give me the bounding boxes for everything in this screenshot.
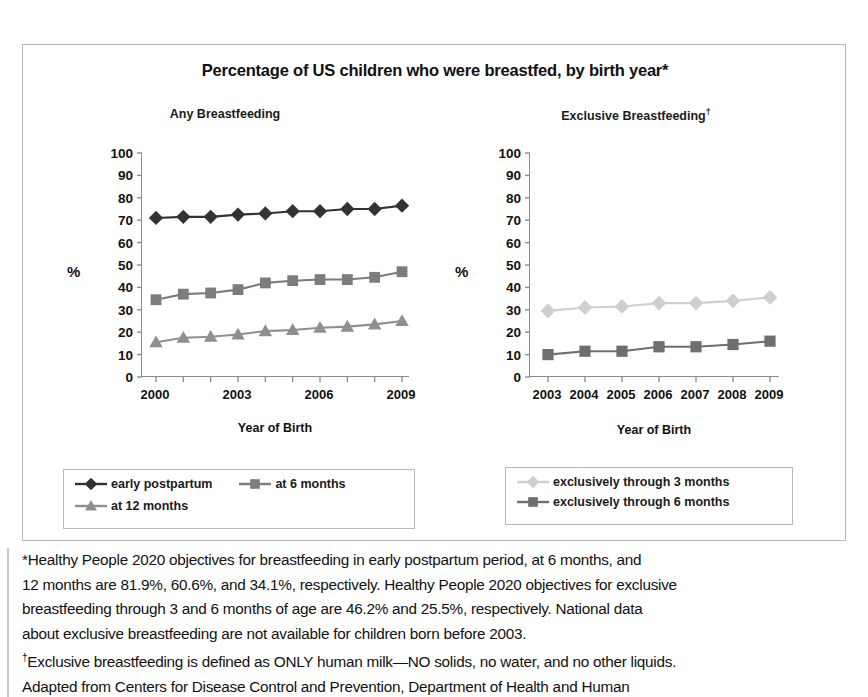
data-point-marker [690,341,701,352]
series-line-at-12-months [156,321,402,342]
left-panel-title: Any Breastfeeding [65,107,385,121]
right-panel-title-text: Exclusive Breastfeeding [561,109,706,123]
y-tick-label: 40 [453,280,521,295]
legend-item-at-12-months[interactable]: at 12 months [74,499,188,513]
data-point-marker [342,274,353,285]
data-point-marker [763,290,778,305]
legend-item-label: at 6 months [275,477,345,491]
data-point-marker [578,300,593,315]
y-tick-label: 20 [453,325,521,340]
legend-row: early postpartumat 6 months [74,477,404,491]
y-tick-label: 0 [453,370,521,385]
chart-any-breastfeeding: % 1009080706050403020100 200020032006200… [65,141,425,441]
data-point-marker [541,304,556,319]
y-tick-label: 30 [453,302,521,317]
y-tick-label: 80 [65,190,133,205]
chart-exclusive-breastfeeding: % 1009080706050403020100 200320042005200… [453,141,823,441]
footnote-line-1: *Healthy People 2020 objectives for brea… [22,548,846,573]
y-tick-label: 100 [65,146,133,161]
y-tick-label: 10 [65,347,133,362]
x-tick-label: 2006 [305,387,334,402]
x-tick-label: 2009 [387,387,416,402]
data-point-marker [205,288,216,299]
left-plot-area [141,153,409,377]
x-tick-label: 2004 [570,387,599,402]
legend-item-exclusively-through-6-months[interactable]: exclusively through 6 months [516,495,729,509]
x-tick-label: 2003 [223,387,252,402]
y-tick-label: 90 [453,168,521,183]
legend-item-at-6-months[interactable]: at 6 months [238,477,345,491]
data-point-marker [652,296,667,311]
y-tick-label: 20 [65,325,133,340]
footnote-block: *Healthy People 2020 objectives for brea… [22,548,846,697]
legend-marker-square-icon [238,477,272,491]
x-tick-label: 2000 [141,387,170,402]
y-tick-label: 90 [65,168,133,183]
y-tick-label: 40 [65,280,133,295]
data-point-marker [260,278,271,289]
data-point-marker [176,210,190,224]
data-point-marker [151,294,162,305]
footnote-line-5: †Exclusive breastfeeding is defined as O… [22,646,846,675]
legend-row: at 12 months [74,499,404,513]
data-point-marker [395,314,409,326]
data-point-marker [315,274,326,285]
footnote-line-3: breastfeeding through 3 and 6 months of … [22,597,846,622]
right-x-axis-label: Year of Birth [529,423,779,437]
legend-item-label: at 12 months [111,499,188,513]
footnote-line-5-text: Exclusive breastfeeding is defined as ON… [27,653,676,670]
right-panel-title: Exclusive Breastfeeding† [471,107,801,123]
y-tick-label: 50 [453,258,521,273]
figure-title: Percentage of US children who were breas… [23,61,847,80]
legend-item-label: exclusively through 3 months [553,475,729,489]
legend-marker-diamond-icon [74,477,108,491]
data-point-marker [727,339,738,350]
y-tick-label: 10 [453,347,521,362]
x-tick-label: 2007 [681,387,710,402]
data-point-marker [286,204,300,218]
y-tick-label: 0 [65,370,133,385]
data-point-marker [653,341,664,352]
data-point-marker [542,349,553,360]
data-point-marker [397,266,408,277]
data-point-marker [689,296,704,311]
data-point-marker [764,336,775,347]
data-point-marker [726,293,741,308]
x-tick-label: 2008 [718,387,747,402]
footnote-line-4: about exclusive breastfeeding are not av… [22,622,846,647]
footnote-line-2: 12 months are 81.9%, 60.6%, and 34.1%, r… [22,573,846,598]
left-x-axis-label: Year of Birth [141,421,409,435]
footnote-line-6: Adapted from Centers for Disease Control… [22,675,846,697]
legend-item-label: early postpartum [111,477,212,491]
y-tick-label: 60 [65,235,133,250]
x-tick-label: 2006 [644,387,673,402]
legend-exclusive-breastfeeding: exclusively through 3 monthsexclusively … [505,467,793,525]
y-tick-label: 50 [65,258,133,273]
y-tick-label: 80 [453,190,521,205]
data-point-marker [231,207,245,221]
y-tick-label: 60 [453,235,521,250]
data-point-marker [178,289,189,300]
y-tick-label: 30 [65,302,133,317]
data-point-marker [395,199,409,213]
figure-frame: Percentage of US children who were breas… [22,44,846,541]
y-tick-label: 70 [65,213,133,228]
series-line-at-6-months [156,272,402,300]
data-point-marker [233,284,244,295]
x-tick-label: 2005 [607,387,636,402]
legend-item-exclusively-through-3-months[interactable]: exclusively through 3 months [516,475,729,489]
legend-item-label: exclusively through 6 months [553,495,729,509]
dagger-marker: † [706,107,711,117]
series-line-early-postpartum [156,206,402,218]
data-point-marker [615,299,630,314]
data-point-marker [340,202,354,216]
data-point-marker [149,211,163,225]
y-tick-label: 70 [453,213,521,228]
page-edge-bar [7,548,9,697]
legend-any-breastfeeding: early postpartumat 6 monthsat 12 months [63,469,415,529]
legend-marker-diamond-icon [516,475,550,489]
figure-page: Percentage of US children who were breas… [0,0,868,697]
legend-item-early-postpartum[interactable]: early postpartum [74,477,212,491]
data-point-marker [369,272,380,283]
legend-marker-square-icon [516,495,550,509]
